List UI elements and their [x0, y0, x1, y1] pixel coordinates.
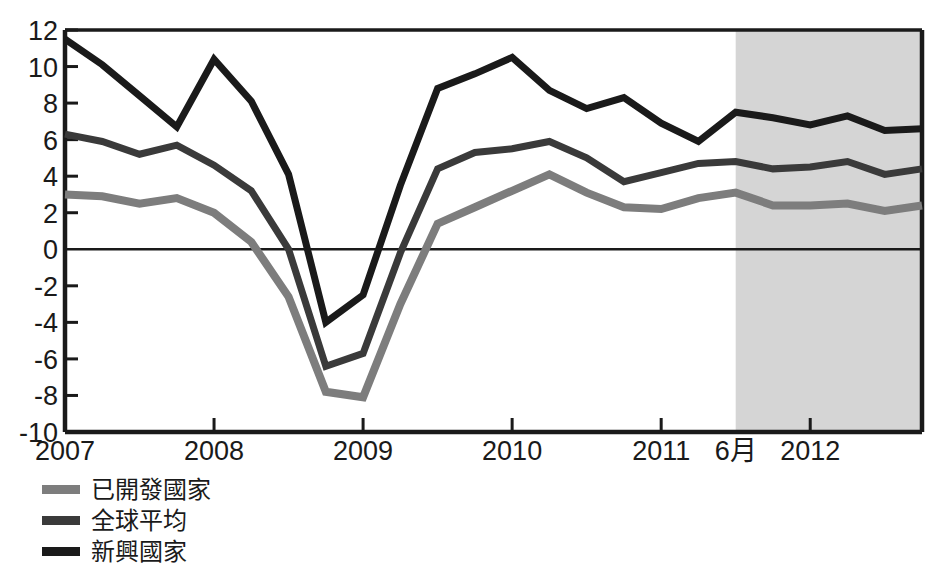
x-tick-label: 2008: [184, 436, 244, 466]
legend-item-developed: 已開發國家: [42, 474, 382, 505]
y-tick-label: -6: [34, 345, 58, 375]
x-axis-labels: 2007200820092010201120126月: [35, 436, 840, 466]
y-tick-label: -2: [34, 272, 58, 302]
legend-label-emerging: 新興國家: [91, 540, 187, 564]
y-tick-label: 4: [43, 162, 58, 192]
y-tick-label: -4: [34, 308, 58, 338]
legend-label-world-average: 全球平均: [91, 509, 187, 533]
y-tick-label: 12: [28, 16, 58, 46]
legend-label-developed: 已開發國家: [91, 478, 211, 502]
x-tick-label: 2009: [333, 436, 393, 466]
legend-swatch-emerging: [42, 547, 80, 556]
legend-item-world-average: 全球平均: [42, 505, 382, 536]
y-tick-label: 10: [28, 53, 58, 83]
x-tick-label: 2010: [482, 436, 542, 466]
x-tick-label: 2007: [35, 436, 95, 466]
y-tick-label: 8: [43, 89, 58, 119]
x-axis-annotation: 6月: [715, 436, 757, 466]
y-tick-label: 6: [43, 126, 58, 156]
legend-item-emerging: 新興國家: [42, 536, 382, 567]
forecast-shaded-region: [736, 30, 922, 432]
chart-legend: 已開發國家 全球平均 新興國家: [42, 474, 382, 567]
x-tick-label: 2011: [632, 436, 690, 466]
x-tick-label: 2012: [780, 436, 840, 466]
y-tick-label: 0: [43, 235, 58, 265]
y-axis-labels: 121086420-2-4-6-8-10: [19, 16, 58, 448]
chart-container: 121086420-2-4-6-8-10 2007200820092010201…: [0, 0, 947, 575]
y-tick-label: 2: [43, 199, 58, 229]
y-tick-label: -8: [34, 381, 58, 411]
legend-swatch-developed: [42, 485, 80, 494]
legend-swatch-world-average: [42, 516, 80, 525]
